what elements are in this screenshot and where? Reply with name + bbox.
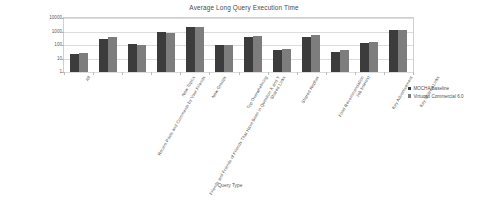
y-axis-tick-label: 100 xyxy=(32,42,62,47)
plot-area xyxy=(63,17,414,73)
bar-group xyxy=(389,18,407,72)
bar[interactable] xyxy=(331,52,340,72)
x-axis-label: All xyxy=(84,75,91,82)
bar-group xyxy=(302,18,320,72)
x-axis-title: Query Type xyxy=(0,183,460,188)
legend-label: Virtuoso Commercial 6.0 xyxy=(413,94,463,99)
bar[interactable] xyxy=(244,37,253,72)
bar-group xyxy=(331,18,349,72)
bar[interactable] xyxy=(108,37,117,72)
bar[interactable] xyxy=(253,36,262,72)
bar[interactable] xyxy=(70,54,79,72)
bar-group xyxy=(157,18,175,72)
bar[interactable] xyxy=(340,50,349,72)
y-axis-tick-label: 1000 xyxy=(32,28,62,33)
bar[interactable] xyxy=(157,32,166,73)
bar[interactable] xyxy=(166,33,175,72)
chart-title: Average Long Query Execution Time xyxy=(0,4,488,11)
bar[interactable] xyxy=(79,53,88,72)
legend-item[interactable]: MOCHA Baseline xyxy=(408,86,486,91)
bar-group xyxy=(186,18,204,72)
bar[interactable] xyxy=(273,50,282,72)
y-axis-tick-label: 10 xyxy=(32,55,62,60)
bar[interactable] xyxy=(360,43,369,72)
bar[interactable] xyxy=(369,42,378,72)
x-axis-label: Food Recommendation xyxy=(337,75,365,118)
bar-group xyxy=(215,18,233,72)
bar[interactable] xyxy=(311,35,320,72)
bar[interactable] xyxy=(389,30,398,72)
y-axis-tick-label: 10000 xyxy=(32,15,62,20)
bar-group xyxy=(70,18,88,72)
y-axis-tick-label: 1 xyxy=(32,69,62,74)
chart-container: Average Long Query Execution Time 110100… xyxy=(0,0,488,211)
legend-label: MOCHA Baseline xyxy=(413,86,449,91)
bar[interactable] xyxy=(195,27,204,72)
bar[interactable] xyxy=(215,45,224,72)
x-axis-label: Friends and Friends of Friends That Have… xyxy=(208,75,281,196)
legend-swatch-icon xyxy=(408,94,411,97)
legend-item[interactable]: Virtuoso Commercial 6.0 xyxy=(408,94,486,99)
bar[interactable] xyxy=(128,44,137,72)
x-axis-label: Shared Replies xyxy=(301,75,321,104)
x-axis-label: New Groups xyxy=(210,75,227,99)
bar[interactable] xyxy=(137,45,146,72)
bar[interactable] xyxy=(302,37,311,72)
chart-legend: MOCHA BaselineVirtuoso Commercial 6.0 xyxy=(408,86,486,101)
bar-group xyxy=(244,18,262,72)
bar-group xyxy=(360,18,378,72)
bar-group xyxy=(99,18,117,72)
x-axis-label: Recent Posts and Comments by Your Friend… xyxy=(156,75,206,156)
bar[interactable] xyxy=(186,27,195,72)
bar[interactable] xyxy=(282,49,291,72)
legend-swatch-icon xyxy=(408,87,411,90)
bar[interactable] xyxy=(398,30,407,72)
bar[interactable] xyxy=(224,45,233,72)
bar-group xyxy=(273,18,291,72)
x-axis-category-labels: AllRecent Posts and Comments by Your Fri… xyxy=(63,75,414,195)
bar-group xyxy=(128,18,146,72)
bar[interactable] xyxy=(99,39,108,72)
